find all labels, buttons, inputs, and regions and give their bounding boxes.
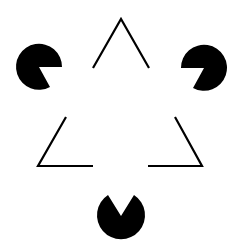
bottom-pacman-shape [97,195,145,239]
bottom-right-corner-lines [148,117,202,166]
pacman-inducers [16,44,227,239]
top-vertex-lines [93,19,149,68]
kanizsa-figure [0,0,233,252]
outline-triangle [38,19,202,166]
left-pacman-shape [16,44,62,90]
bottom-left-corner-lines [38,117,93,166]
right-pacman-shape [181,45,227,91]
